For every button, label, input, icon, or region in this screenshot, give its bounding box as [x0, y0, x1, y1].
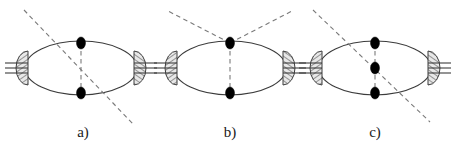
top-vertex [371, 37, 380, 49]
feynman-diagram-figure: a)b)c) [0, 0, 458, 151]
diagram-c-label: c) [369, 124, 381, 141]
top-vertex [77, 37, 86, 49]
top-vertex [226, 37, 235, 49]
figure-canvas: a)b)c) [0, 0, 458, 151]
diagram-b-label: b) [224, 124, 237, 141]
bottom-vertex [226, 87, 235, 99]
bottom-vertex [77, 87, 86, 99]
bottom-vertex [371, 87, 380, 99]
middle-vertex [371, 62, 380, 74]
diagram-a-label: a) [77, 124, 89, 141]
